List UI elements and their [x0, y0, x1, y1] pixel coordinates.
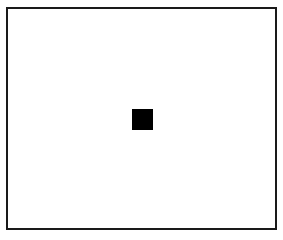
black-square-marker — [132, 109, 153, 130]
